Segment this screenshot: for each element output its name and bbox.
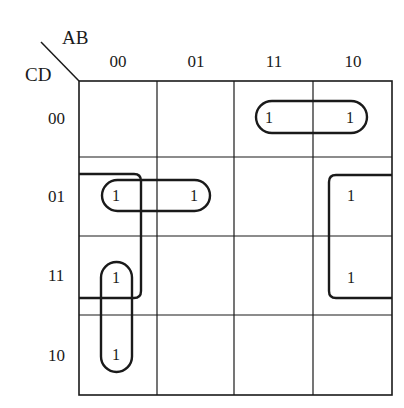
kmap-cell: 1: [347, 270, 355, 286]
kmap-cell: 1: [112, 188, 120, 204]
kmap-cell: 1: [347, 188, 355, 204]
row-header: 11: [48, 267, 64, 284]
row-header: 10: [48, 347, 65, 364]
kmap-cell: 1: [346, 110, 354, 126]
row-header: 01: [48, 188, 65, 205]
col-header: 10: [345, 53, 362, 70]
col-header: 11: [266, 53, 282, 70]
col-variable-label: AB: [62, 28, 88, 47]
col-header: 00: [110, 53, 127, 70]
grid-border: [79, 81, 392, 395]
col-header: 01: [188, 53, 205, 70]
row-header: 00: [48, 110, 65, 127]
row-variable-label: CD: [25, 65, 51, 84]
kmap-cell: 1: [190, 188, 198, 204]
kmap-cell: 1: [265, 110, 273, 126]
kmap-cell: 1: [112, 347, 120, 363]
kmap-cell: 1: [112, 270, 120, 286]
